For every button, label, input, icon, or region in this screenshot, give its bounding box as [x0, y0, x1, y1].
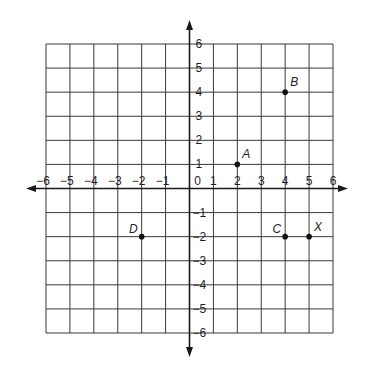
y-axis-down-arrow-icon [186, 347, 193, 357]
x-tick-label: −3 [108, 174, 122, 188]
x-tick-label: 1 [210, 174, 217, 188]
x-tick-label: 3 [258, 174, 265, 188]
point-dot [282, 234, 288, 240]
x-axis-left-arrow-icon [26, 185, 36, 192]
y-tick-label: 2 [196, 133, 203, 147]
x-tick-label: −2 [132, 174, 146, 188]
plotted-points: ABCXD [129, 75, 323, 239]
x-tick-label: −4 [84, 174, 98, 188]
y-tick-label: 6 [196, 37, 203, 51]
x-tick-label: 4 [282, 174, 289, 188]
axes [26, 20, 348, 357]
y-tick-label: −3 [193, 254, 207, 268]
y-axis-up-arrow-icon [186, 20, 193, 30]
point-label: B [290, 75, 298, 89]
x-tick-label: −1 [156, 174, 170, 188]
y-tick-label: −2 [193, 230, 207, 244]
point-label: C [272, 222, 281, 236]
x-axis-right-arrow-icon [338, 185, 348, 192]
y-tick-label: −5 [193, 302, 207, 316]
x-tick-label: 6 [330, 174, 337, 188]
y-tick-label: −6 [193, 326, 207, 340]
x-tick-label: 5 [306, 174, 313, 188]
y-tick-label: 3 [196, 109, 203, 123]
point-dot [235, 162, 241, 168]
x-tick-label: −6 [36, 174, 50, 188]
point-label: A [241, 147, 250, 161]
point-dot [282, 89, 288, 95]
y-tick-label: −1 [193, 206, 207, 220]
point-label: D [129, 222, 138, 236]
y-tick-label: −4 [193, 278, 207, 292]
coordinate-plane: −6−5−4−3−2−10123456123456−1−2−3−4−5−6 AB… [0, 0, 369, 369]
y-tick-label: 5 [196, 61, 203, 75]
x-tick-label: 0 [194, 174, 201, 188]
y-tick-label: 1 [196, 157, 203, 171]
point-label: X [313, 220, 323, 234]
x-tick-label: 2 [234, 174, 241, 188]
x-tick-label: −5 [60, 174, 74, 188]
point-dot [139, 234, 145, 240]
y-tick-label: 4 [196, 85, 203, 99]
point-dot [306, 234, 312, 240]
